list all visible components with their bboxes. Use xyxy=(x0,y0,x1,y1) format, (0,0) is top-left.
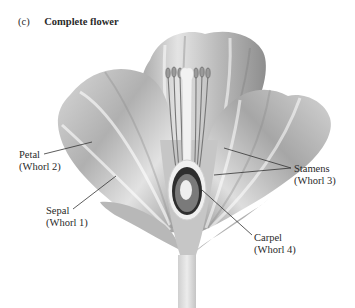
label-sepal: Sepal (Whorl 1) xyxy=(46,205,88,229)
label-carpel: Carpel (Whorl 4) xyxy=(254,232,296,256)
ovule xyxy=(180,180,192,200)
label-carpel-name: Carpel xyxy=(254,232,296,244)
label-stamens-whorl: (Whorl 3) xyxy=(294,175,336,187)
label-carpel-whorl: (Whorl 4) xyxy=(254,244,296,256)
stem xyxy=(178,255,196,308)
label-stamens-name: Stamens xyxy=(294,163,336,175)
label-petal-whorl: (Whorl 2) xyxy=(19,161,61,173)
label-sepal-whorl: (Whorl 1) xyxy=(46,217,88,229)
label-stamens: Stamens (Whorl 3) xyxy=(294,163,336,187)
label-sepal-name: Sepal xyxy=(46,205,88,217)
label-petal: Petal (Whorl 2) xyxy=(19,149,61,173)
label-petal-name: Petal xyxy=(19,149,61,161)
